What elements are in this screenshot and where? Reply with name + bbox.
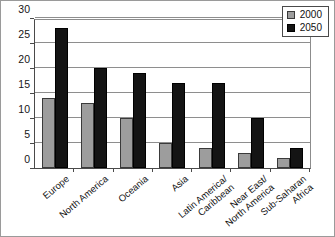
bar-2050-sub-saharan-africa — [290, 148, 303, 168]
bar-2000-asia — [159, 143, 172, 168]
x-tick-mark — [309, 168, 310, 172]
bar-group — [153, 20, 192, 168]
bar-2050-north-america — [94, 68, 107, 168]
bar-group — [74, 20, 113, 168]
bar-2050-oceania — [133, 73, 146, 168]
legend-item-2000: 2000 — [287, 10, 322, 20]
y-axis: 051015202530 — [1, 19, 30, 169]
bar-2050-asia — [172, 83, 185, 168]
y-tick-label: 5 — [4, 129, 30, 139]
x-tick-mark — [73, 168, 74, 172]
gray-square-icon — [287, 11, 295, 19]
x-axis-labels: EuropeNorth AmericaOceaniaAsiaLatin Amer… — [34, 173, 311, 237]
legend-label: 2050 — [300, 23, 322, 33]
bar-group — [35, 20, 74, 168]
bar-group — [271, 20, 310, 168]
y-tick-label: 30 — [4, 4, 30, 14]
bar-group — [192, 20, 231, 168]
x-tick-mark — [191, 168, 192, 172]
y-tick-label: 10 — [4, 104, 30, 114]
x-tick-mark — [270, 168, 271, 172]
bar-group — [231, 20, 270, 168]
y-tick-label: 0 — [4, 154, 30, 164]
x-tick-mark — [152, 168, 153, 172]
bar-2050-near-east-north-america — [251, 118, 264, 168]
bar-2000-oceania — [120, 118, 133, 168]
legend-item-2050: 2050 — [287, 23, 322, 33]
bar-2050-latin-america-caribbean — [212, 83, 225, 168]
x-tick-label: Europe — [40, 173, 71, 201]
bar-2050-europe — [55, 28, 68, 168]
bar-chart-figure: 051015202530 EuropeNorth AmericaOceaniaA… — [0, 0, 335, 237]
bar-2000-north-america — [81, 103, 94, 168]
plot-area — [34, 19, 311, 169]
black-square-icon — [287, 24, 295, 32]
bar-2000-europe — [42, 98, 55, 168]
bar-2000-latin-america-caribbean — [199, 148, 212, 168]
x-tick-label: Asia — [168, 173, 189, 193]
y-tick-label: 25 — [4, 29, 30, 39]
legend: 20002050 — [282, 6, 329, 37]
bar-2000-sub-saharan-africa — [277, 158, 290, 168]
bar-group — [114, 20, 153, 168]
legend-label: 2000 — [300, 10, 322, 20]
gridline — [35, 17, 310, 18]
y-tick-label: 15 — [4, 79, 30, 89]
bar-2000-near-east-north-america — [238, 153, 251, 168]
x-tick-mark — [113, 168, 114, 172]
bars-layer — [35, 20, 310, 168]
y-tick-label: 20 — [4, 54, 30, 64]
x-tick-mark — [230, 168, 231, 172]
x-tick-label: Oceania — [116, 173, 150, 204]
